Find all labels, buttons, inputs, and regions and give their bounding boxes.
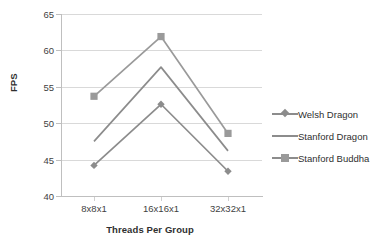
legend-label-0: Welsh Dragon bbox=[298, 109, 358, 120]
chart-legend: Welsh Dragon Stanford Dragon Stanford Bu… bbox=[272, 103, 389, 169]
legend-item-welsh-dragon: Welsh Dragon bbox=[272, 103, 389, 125]
legend-label-1: Stanford Dragon bbox=[298, 131, 368, 142]
legend-marker-diamond-icon bbox=[272, 108, 298, 120]
legend-item-stanford-buddha: Stanford Buddha bbox=[272, 147, 389, 169]
legend-marker-square-icon bbox=[272, 152, 298, 164]
fps-line-chart: 65 60 55 50 45 40 8x8x1 16x16x1 32x32x1 … bbox=[0, 0, 389, 245]
data-point-2-0 bbox=[90, 93, 97, 100]
legend-item-stanford-dragon: Stanford Dragon bbox=[272, 125, 389, 147]
data-point-2-2 bbox=[224, 130, 231, 137]
legend-label-2: Stanford Buddha bbox=[298, 153, 369, 164]
data-point-2-1 bbox=[157, 33, 164, 40]
legend-marker-line-icon bbox=[272, 130, 298, 142]
series-line-0 bbox=[94, 104, 228, 171]
series-line-1 bbox=[94, 67, 228, 151]
